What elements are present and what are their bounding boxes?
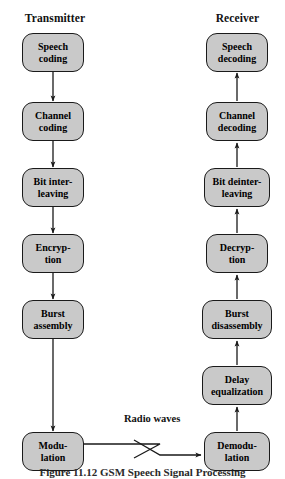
node-label-line2: coding — [39, 53, 67, 64]
node-bit-deinterleaving[interactable]: Bit deinter- leaving — [204, 168, 270, 207]
node-label-line2: decoding — [218, 53, 256, 64]
node-label-line2: tion — [229, 254, 246, 265]
node-channel-coding[interactable]: Channel coding — [22, 102, 84, 141]
node-speech-decoding[interactable]: Speech decoding — [206, 33, 268, 72]
node-speech-coding[interactable]: Speech coding — [22, 33, 84, 72]
node-delay-equalization[interactable]: Delay equalization — [202, 366, 272, 405]
node-label-line1: Demodu- — [217, 440, 256, 451]
node-burst-disassembly[interactable]: Burst disassembly — [202, 300, 272, 339]
node-label-line1: Delay — [225, 374, 249, 385]
node-label-line2: coding — [39, 122, 67, 133]
node-label-line1: Encryp- — [36, 242, 71, 253]
radio-waves-label: Radio waves — [124, 413, 180, 424]
node-label-line2: leaving — [222, 188, 253, 199]
node-label-line1: Decryp- — [220, 242, 254, 253]
radio-waves-link — [84, 440, 201, 458]
node-label-line2: disassembly — [211, 320, 262, 331]
node-label-line2: lation — [225, 452, 249, 463]
node-decryption[interactable]: Decryp- tion — [206, 234, 268, 273]
node-label-line1: Channel — [219, 110, 255, 121]
node-label-line1: Modu- — [39, 440, 68, 451]
node-label-line2: tion — [45, 254, 62, 265]
node-label-line1: Bit deinter- — [213, 176, 262, 187]
node-bit-interleaving[interactable]: Bit inter- leaving — [22, 168, 84, 207]
node-label-line1: Burst — [225, 308, 249, 319]
node-burst-assembly[interactable]: Burst assembly — [22, 300, 84, 339]
figure-gsm-speech-signal-processing: Transmitter Receiver — [0, 0, 285, 479]
figure-caption: Figure 11.12 GSM Speech Signal Processin… — [0, 466, 285, 478]
node-label-line2: decoding — [218, 122, 256, 133]
node-label-line1: Speech — [38, 41, 68, 52]
node-label-line1: Speech — [222, 41, 252, 52]
node-label-line2: lation — [41, 452, 65, 463]
node-label-line2: assembly — [34, 320, 73, 331]
node-label-line1: Bit inter- — [34, 176, 73, 187]
node-label-line1: Channel — [35, 110, 71, 121]
node-label-line1: Burst — [41, 308, 65, 319]
node-encryption[interactable]: Encryp- tion — [22, 234, 84, 273]
node-channel-decoding[interactable]: Channel decoding — [206, 102, 268, 141]
node-label-line2: leaving — [38, 188, 69, 199]
node-label-line2: equalization — [211, 386, 263, 397]
